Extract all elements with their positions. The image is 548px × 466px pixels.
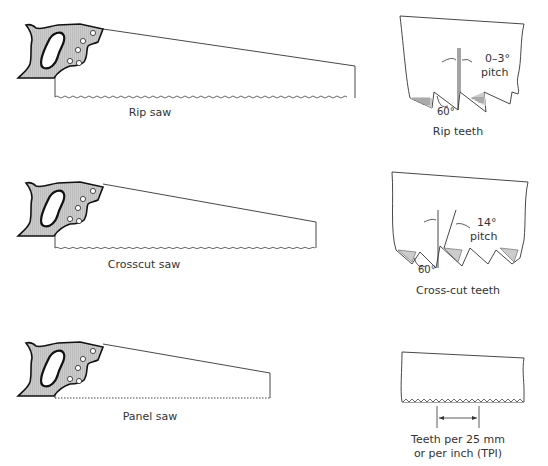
- crosscut-pitch-label: pitch: [470, 230, 497, 243]
- crosscut-saw-drawing: [18, 182, 316, 249]
- crosscut-saw-label: Crosscut saw: [108, 258, 180, 271]
- rip-saw-label: Rip saw: [129, 106, 172, 119]
- rip-saw-drawing: [18, 24, 355, 98]
- crosscut-tooth-angle: 60°: [418, 264, 436, 275]
- panel-saw-label: Panel saw: [123, 410, 178, 423]
- crosscut-teeth-detail: [392, 172, 528, 268]
- rip-pitch-label: pitch: [481, 66, 508, 79]
- rip-teeth-caption: Rip teeth: [433, 125, 483, 138]
- tpi-caption-line2: or per inch (TPI): [414, 447, 502, 460]
- panel-saw-drawing: [18, 342, 270, 398]
- saw-diagram: [0, 0, 548, 466]
- tpi-detail: [401, 352, 524, 428]
- crosscut-pitch-angle: 14°: [477, 216, 497, 229]
- rip-pitch-angle: 0–3°: [485, 52, 510, 65]
- crosscut-teeth-caption: Cross-cut teeth: [416, 284, 500, 297]
- tpi-caption-line1: Teeth per 25 mm: [411, 433, 505, 446]
- rip-tooth-angle: 60°: [437, 106, 455, 117]
